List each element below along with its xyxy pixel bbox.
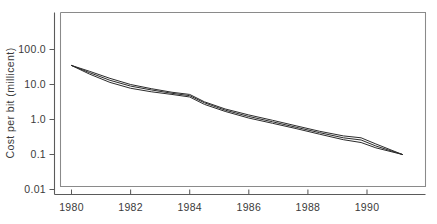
chart-canvas: 100.0 10.0 1.0 0.1 0.01 1980 1982 1984 1… (0, 0, 437, 224)
y-axis-title: Cost per bit (millicent) (4, 47, 16, 158)
x-tick-label-1988: 1988 (296, 201, 321, 213)
x-axis (55, 190, 426, 195)
y-axis-ticks (50, 50, 55, 190)
x-tick-label-1986: 1986 (237, 201, 262, 213)
plot-frame (61, 13, 426, 187)
y-tick-label-0-1: 0.1 (31, 148, 47, 160)
data-line-3 (72, 65, 403, 154)
y-tick-label-100: 100.0 (18, 43, 46, 55)
y-axis-title-text: Cost per bit (millicent) (4, 47, 16, 158)
data-series-group (72, 65, 403, 154)
x-tick-labels: 1980 1982 1984 1986 1988 1990 (59, 201, 379, 213)
x-tick-label-1984: 1984 (177, 201, 202, 213)
y-tick-labels: 100.0 10.0 1.0 0.1 0.01 (18, 43, 46, 195)
x-axis-ticks (72, 190, 368, 195)
y-tick-label-10: 10.0 (24, 78, 46, 90)
x-tick-label-1990: 1990 (355, 201, 380, 213)
y-tick-label-1: 1.0 (31, 113, 47, 125)
y-axis (50, 13, 55, 195)
x-tick-label-1982: 1982 (118, 201, 143, 213)
chart-figure: 100.0 10.0 1.0 0.1 0.01 1980 1982 1984 1… (0, 0, 437, 224)
x-tick-label-1980: 1980 (59, 201, 84, 213)
y-tick-label-0-01: 0.01 (24, 183, 46, 195)
